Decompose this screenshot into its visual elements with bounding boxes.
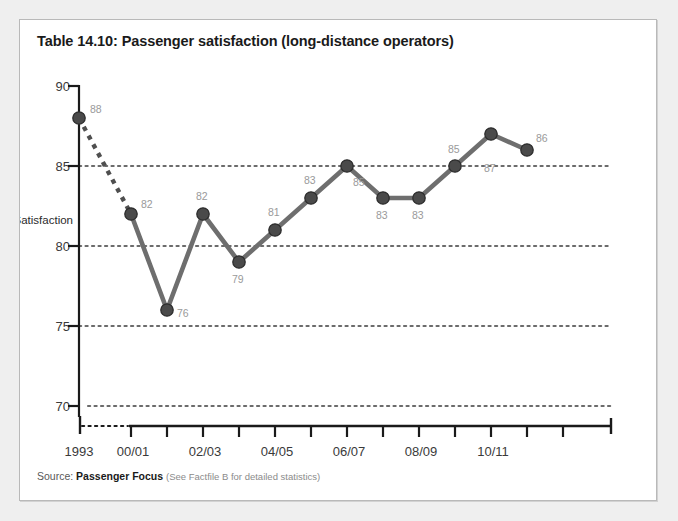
y-tick-label-90: 90 [56,79,70,94]
data-label: 83 [376,209,388,221]
line-chart: % Satisfaction 90 85 80 75 70 [20,20,658,502]
data-label: 85 [448,143,460,155]
y-tick-label-70: 70 [56,399,70,414]
source-detail: (See Factfile B for detailed statistics) [166,471,320,482]
data-point [485,128,497,140]
data-point [125,208,137,220]
data-label: 81 [268,206,280,218]
x-tick-label-0405: 04/05 [261,444,294,459]
data-label: 82 [196,190,208,202]
data-point [413,192,425,204]
data-label: 88 [90,103,102,115]
x-tick-label-0607: 06/07 [333,444,366,459]
y-tick-label-75: 75 [56,319,70,334]
data-point [269,224,281,236]
data-point [305,192,317,204]
x-tick-label-0001: 00/01 [117,444,150,459]
data-label: 82 [141,198,153,210]
data-label: 83 [412,209,424,221]
data-label: 85 [353,176,365,188]
source-label: Source: [37,470,73,482]
series-line [131,134,527,310]
x-tick-label-0203: 02/03 [189,444,222,459]
data-point [341,160,353,172]
data-label: 83 [304,174,316,186]
y-axis-title: % Satisfaction [20,214,73,226]
source-organization: Passenger Focus [76,470,163,482]
x-tick-label-1993: 1993 [65,444,94,459]
y-tick-label-80: 80 [56,239,70,254]
data-point [521,144,533,156]
source-note: Source: Passenger Focus (See Factfile B … [37,470,320,482]
data-label: 76 [177,307,189,319]
x-tick-label-1011: 10/11 [477,444,509,459]
figure-card: Table 14.10: Passenger satisfaction (lon… [19,19,657,501]
data-point [233,256,245,268]
data-label: 87 [484,162,496,174]
series-markers [73,112,533,316]
x-axis [80,416,612,437]
data-point [377,192,389,204]
data-point [197,208,209,220]
data-point [73,112,85,124]
x-tick-label-0809: 08/09 [405,444,438,459]
data-label: 86 [536,132,548,144]
data-point [161,304,173,316]
y-tick-label-85: 85 [56,159,70,174]
data-label: 79 [232,273,244,285]
data-point [449,160,461,172]
